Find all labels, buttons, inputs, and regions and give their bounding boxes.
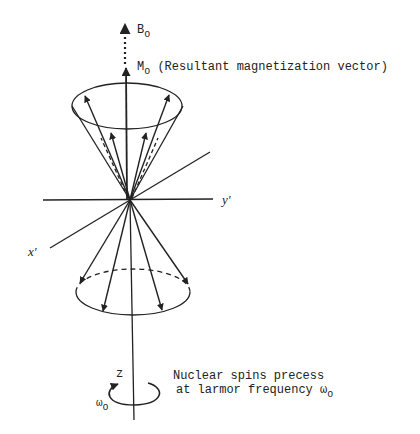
spin-vector xyxy=(130,95,169,200)
m0-label: Mo (Resultant magnetization vector) xyxy=(137,61,388,73)
y-prime-axis xyxy=(43,199,213,200)
spin-vector xyxy=(130,200,162,310)
spin-vector xyxy=(103,200,130,311)
lower-cone-rim-back xyxy=(76,269,190,292)
z-axis xyxy=(130,200,134,420)
m0-description: (Resultant magnetization vector) xyxy=(157,60,387,74)
spin-vector xyxy=(80,200,130,283)
b0-label: Bo xyxy=(137,24,150,36)
caption-line-2: at larmor frequency ωo xyxy=(176,384,333,396)
m0-arrow xyxy=(126,68,127,200)
lower-cone-rim-front xyxy=(76,292,190,315)
spin-vector xyxy=(130,133,146,200)
caption-line-1: Nuclear spins precess xyxy=(173,370,324,382)
spin-vector xyxy=(85,96,130,200)
z-label: z xyxy=(116,368,123,380)
y-prime-label: y' xyxy=(222,193,231,206)
omega0-label: ωo xyxy=(96,398,109,409)
x-prime-label: x' xyxy=(28,245,37,258)
